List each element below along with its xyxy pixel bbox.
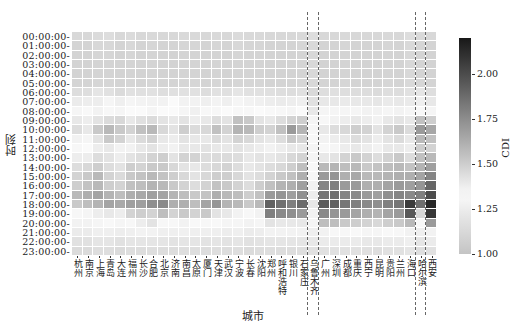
heatmap-cell [287,163,298,172]
heatmap-cell [362,237,373,246]
heatmap-cell [244,163,255,172]
heatmap-cell [169,172,180,181]
heatmap-cell [319,200,330,209]
heatmap-cell [383,209,394,218]
heatmap-cell [394,32,405,41]
heatmap-cell [169,163,180,172]
heatmap-cell [104,135,115,144]
heatmap-cell [158,247,169,256]
heatmap-cell [83,97,94,106]
heatmap-cell [383,116,394,125]
heatmap-cell [190,228,201,237]
heatmap-cell [351,107,362,116]
heatmap-cell [394,107,405,116]
heatmap-cell [373,144,384,153]
heatmap-cell [169,79,180,88]
heatmap-cell [351,153,362,162]
heatmap-cell [104,116,115,125]
heatmap-cell [265,191,276,200]
heatmap-cell [244,228,255,237]
heatmap-cell [93,172,104,181]
heatmap-cell [147,247,158,256]
heatmap-cell [287,219,298,228]
heatmap-cell [383,135,394,144]
heatmap-cell [126,97,137,106]
heatmap-cell [255,163,266,172]
heatmap-cell [104,60,115,69]
heatmap-cell [255,144,266,153]
heatmap-cell [169,135,180,144]
x-tick-label: 南昌 [179,259,190,277]
heatmap-cell [255,41,266,50]
heatmap-cell [169,125,180,134]
heatmap-cell [287,125,298,134]
heatmap-cell [276,125,287,134]
heatmap-cell [383,88,394,97]
colorbar-tick-label: 1.75 [477,114,498,124]
heatmap-cell [179,181,190,190]
heatmap-cell [244,79,255,88]
heatmap-cell [340,107,351,116]
heatmap-cell [115,69,126,78]
x-tick-mark [120,256,121,258]
heatmap-cell [83,32,94,41]
heatmap-cell [233,32,244,41]
heatmap-cell [169,69,180,78]
heatmap-cell [426,228,437,237]
heatmap-cell [104,144,115,153]
heatmap-cell [265,144,276,153]
heatmap-cell [169,247,180,256]
heatmap-cell [104,191,115,200]
heatmap-cell [93,69,104,78]
x-tick-mark [77,256,78,258]
heatmap-cell [136,144,147,153]
heatmap-cell [115,172,126,181]
heatmap-cell [330,191,341,200]
colorbar-title: CDI [500,138,511,158]
heatmap-cell [276,69,287,78]
heatmap-cell [255,107,266,116]
heatmap-cell [147,41,158,50]
colorbar-tick-mark [472,209,475,210]
heatmap-cell [136,219,147,228]
heatmap-cell [330,88,341,97]
heatmap-cell [233,181,244,190]
heatmap-cell [244,172,255,181]
heatmap-cell [169,153,180,162]
heatmap-cell [319,125,330,134]
heatmap-cell [319,144,330,153]
heatmap-cell [373,228,384,237]
heatmap-cell [373,153,384,162]
heatmap-cell [126,153,137,162]
heatmap-cell [136,163,147,172]
heatmap-cell [265,60,276,69]
heatmap-cell [72,247,83,256]
colorbar-tick-label: 2.00 [477,69,498,79]
heatmap-cell [104,181,115,190]
heatmap-cell [147,97,158,106]
heatmap-cell [126,247,137,256]
heatmap-cell [190,144,201,153]
heatmap-cell [426,181,437,190]
heatmap-cell [158,135,169,144]
heatmap-cell [83,172,94,181]
heatmap-cell [287,32,298,41]
heatmap-cell [394,219,405,228]
heatmap-cell [158,191,169,200]
heatmap-cell [222,153,233,162]
heatmap-cell [373,200,384,209]
x-tick-label: 武汉 [222,259,233,277]
heatmap-cell [383,125,394,134]
heatmap-cell [330,60,341,69]
heatmap-cell [201,88,212,97]
heatmap-cell [426,144,437,153]
heatmap-cell [115,191,126,200]
heatmap-cell [276,228,287,237]
heatmap-cell [158,60,169,69]
heatmap-cell [330,200,341,209]
heatmap-cell [351,51,362,60]
heatmap-cell [244,181,255,190]
colorbar-tick-mark [472,119,475,120]
heatmap-cell [287,60,298,69]
heatmap-cell [319,247,330,256]
